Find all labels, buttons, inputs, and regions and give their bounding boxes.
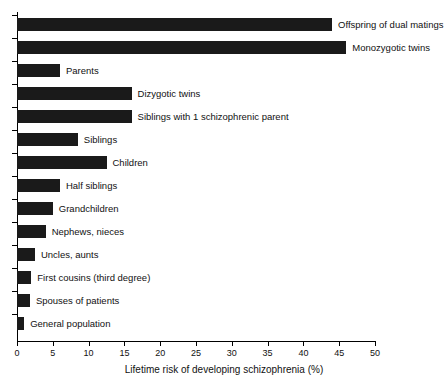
bar (17, 202, 53, 215)
bar-label: Grandchildren (59, 202, 119, 215)
y-tick-13 (12, 314, 17, 315)
y-tick-11 (12, 268, 17, 269)
bar-label: Children (113, 156, 148, 169)
bar-label: Offspring of dual matings (338, 18, 443, 31)
x-tick-label-50: 50 (360, 348, 390, 358)
bar (17, 156, 107, 169)
bar-label: Dizygotic twins (138, 87, 201, 100)
x-tick-label-25: 25 (181, 348, 211, 358)
bar (17, 41, 346, 54)
y-tick-12 (12, 291, 17, 292)
y-tick-0 (12, 15, 17, 16)
x-tick-45 (339, 341, 340, 346)
bar (17, 317, 24, 330)
y-axis-line (17, 12, 18, 341)
bar-label: Siblings with 1 schizophrenic parent (138, 110, 289, 123)
x-tick-label-30: 30 (217, 348, 247, 358)
x-tick-label-10: 10 (74, 348, 104, 358)
x-tick-40 (303, 341, 304, 346)
bar-label: Nephews, nieces (52, 225, 124, 238)
x-tick-30 (232, 341, 233, 346)
x-tick-20 (160, 341, 161, 346)
x-tick-label-35: 35 (253, 348, 283, 358)
y-tick-7 (12, 176, 17, 177)
x-tick-label-40: 40 (288, 348, 318, 358)
x-tick-50 (375, 341, 376, 346)
bar (17, 64, 60, 77)
bar-label: Parents (66, 64, 99, 77)
x-tick-label-5: 5 (38, 348, 68, 358)
y-tick-2 (12, 61, 17, 62)
x-tick-25 (196, 341, 197, 346)
y-tick-9 (12, 222, 17, 223)
plot-area: 05101520253035404550 Offspring of dual m… (0, 0, 448, 387)
bar (17, 225, 46, 238)
x-axis-title: Lifetime risk of developing schizophreni… (0, 364, 448, 375)
y-tick-5 (12, 130, 17, 131)
y-tick-6 (12, 153, 17, 154)
bar-label: Siblings (84, 133, 117, 146)
bar-label: Spouses of patients (36, 294, 119, 307)
bar (17, 110, 132, 123)
y-tick-10 (12, 245, 17, 246)
bar (17, 18, 332, 31)
x-tick-label-15: 15 (109, 348, 139, 358)
bar-label: General population (30, 317, 110, 330)
bar-chart: 05101520253035404550 Offspring of dual m… (0, 0, 448, 387)
x-tick-10 (89, 341, 90, 346)
y-tick-4 (12, 107, 17, 108)
x-tick-35 (268, 341, 269, 346)
x-tick-5 (53, 341, 54, 346)
x-tick-label-0: 0 (2, 348, 32, 358)
bar-label: Uncles, aunts (41, 248, 99, 261)
bar-label: First cousins (third degree) (37, 271, 150, 284)
x-tick-label-20: 20 (145, 348, 175, 358)
bar (17, 87, 132, 100)
bar-label: Monozygotic twins (352, 41, 430, 54)
x-tick-15 (124, 341, 125, 346)
bar (17, 294, 30, 307)
x-tick-0 (17, 341, 18, 346)
y-tick-3 (12, 84, 17, 85)
x-tick-label-45: 45 (324, 348, 354, 358)
bar (17, 271, 31, 284)
bar-label: Half siblings (66, 179, 117, 192)
bar (17, 248, 35, 261)
y-tick-8 (12, 199, 17, 200)
bar (17, 179, 60, 192)
bar (17, 133, 78, 146)
y-tick-1 (12, 38, 17, 39)
